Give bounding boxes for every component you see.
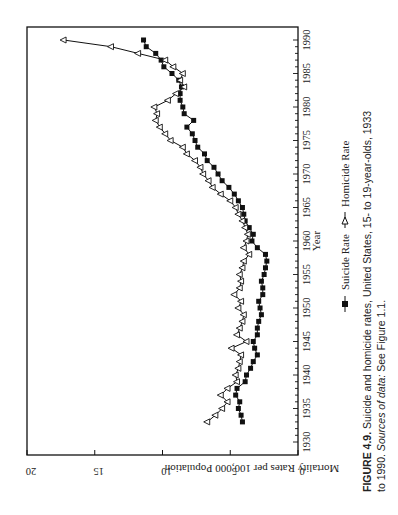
filled-square-marker-icon [251, 339, 256, 344]
filled-square-marker-icon [235, 386, 240, 391]
filled-square-marker-icon [144, 44, 149, 49]
filled-square-marker-icon [211, 165, 216, 170]
filled-square-marker-icon [237, 399, 242, 404]
open-triangle-marker-icon [108, 44, 114, 50]
y-axis-title: Mortality Rates per 100,000 Population [164, 463, 339, 475]
legend-label-suicide: Suicide Rate [339, 234, 351, 290]
legend-item-suicide: Suicide Rate [339, 234, 351, 312]
open-triangle-marker-icon [164, 97, 170, 103]
x-tick-label: 1935 [301, 398, 312, 419]
filled-square-marker-icon [260, 285, 265, 290]
open-triangle-marker-icon [236, 272, 242, 278]
open-triangle-marker-icon [156, 124, 162, 130]
filled-square-marker-icon [244, 373, 249, 378]
open-triangle-marker-icon [167, 138, 173, 144]
filled-square-marker-icon [342, 301, 348, 307]
filled-square-marker-icon [232, 192, 237, 197]
filled-square-marker-icon [191, 118, 196, 123]
open-triangle-marker-icon [204, 419, 210, 425]
filled-square-marker-icon [202, 151, 207, 156]
open-triangle-marker-icon [151, 104, 157, 110]
open-triangle-marker-icon [232, 205, 238, 211]
x-tick-label: 1975 [301, 130, 312, 151]
filled-square-marker-icon [205, 158, 210, 163]
filled-square-marker-icon [240, 419, 245, 424]
filled-square-marker-icon [216, 172, 221, 177]
legend-label-homicide: Homicide Rate [339, 141, 351, 207]
filled-square-marker-icon [259, 279, 264, 284]
filled-square-marker-icon [248, 366, 253, 371]
filled-square-marker-icon [264, 259, 269, 264]
open-triangle-marker-icon [236, 285, 242, 291]
figure-label: FIGURE 4.9. [361, 432, 373, 492]
filled-square-marker-icon [255, 326, 260, 331]
open-triangle-marker-icon [205, 178, 211, 184]
legend: Suicide Rate Homicide Rate [339, 141, 351, 312]
filled-square-marker-icon [252, 346, 257, 351]
figure-caption: FIGURE 4.9. Suicide and homicide rates, … [361, 111, 387, 492]
filled-square-marker-icon [169, 71, 174, 76]
filled-square-marker-icon [251, 359, 256, 364]
filled-square-marker-icon [256, 319, 261, 324]
open-triangle-marker-icon [179, 144, 185, 150]
open-triangle-marker-icon [240, 245, 246, 251]
filled-square-marker-icon [226, 185, 231, 190]
filled-square-marker-icon [255, 332, 260, 337]
y-tick-label: 15 [94, 466, 105, 477]
filled-square-marker-icon [251, 232, 256, 237]
filled-square-marker-icon [256, 299, 261, 304]
filled-square-marker-icon [161, 64, 166, 69]
filled-square-marker-icon [249, 239, 254, 244]
filled-square-marker-icon [263, 265, 268, 270]
filled-square-marker-icon [141, 38, 146, 43]
open-triangle-marker-icon [228, 345, 234, 351]
filled-square-marker-icon [236, 198, 241, 203]
filled-square-marker-icon [193, 138, 198, 143]
filled-square-marker-icon [263, 252, 268, 257]
filled-square-marker-icon [190, 131, 195, 136]
data-series [60, 37, 269, 425]
filled-square-marker-icon [184, 125, 189, 130]
filled-square-marker-icon [262, 272, 267, 277]
filled-square-marker-icon [180, 105, 185, 110]
homicide-rate-line [64, 40, 250, 422]
open-triangle-marker-icon [239, 218, 245, 224]
open-triangle-marker-icon [135, 50, 141, 56]
open-triangle-marker-icon [209, 184, 215, 190]
filled-square-marker-icon [259, 312, 264, 317]
caption-line-2-prefix: to 1990. [375, 451, 387, 492]
x-tick-label: 1970 [301, 164, 312, 185]
filled-square-marker-icon [240, 205, 245, 210]
open-triangle-marker-icon [183, 151, 189, 157]
filled-square-marker-icon [153, 51, 158, 56]
open-triangle-marker-icon [152, 117, 158, 123]
x-tick-label: 1990 [301, 30, 312, 51]
suicide-rate-line [144, 40, 267, 422]
open-triangle-marker-icon [217, 392, 223, 398]
legend-item-homicide: Homicide Rate [339, 141, 351, 228]
open-triangle-marker-icon [162, 131, 168, 137]
x-tick-label: 1985 [301, 63, 312, 84]
open-triangle-marker-icon [232, 372, 238, 378]
x-axis-title: Year [310, 231, 322, 252]
x-tick-label: 1945 [301, 331, 312, 352]
svg-text:to 1990. Sources of data: See: to 1990. Sources of data: See Figure 1.1… [375, 300, 387, 492]
open-triangle-marker-icon [246, 251, 252, 257]
filled-square-marker-icon [178, 98, 183, 103]
filled-square-marker-icon [241, 212, 246, 217]
open-triangle-marker-icon [197, 164, 203, 170]
x-tick-label: 1955 [301, 264, 312, 285]
filled-square-marker-icon [260, 292, 265, 297]
filled-square-marker-icon [239, 413, 244, 418]
figure-page: 05101520 1930193519401945195019551960196… [0, 0, 398, 515]
open-triangle-marker-icon [234, 332, 240, 338]
filled-square-marker-icon [255, 352, 260, 357]
filled-square-marker-icon [195, 145, 200, 150]
x-tick-label: 1965 [301, 197, 312, 218]
caption-line-1: Suicide and homicide rates, United State… [361, 111, 373, 432]
filled-square-marker-icon [258, 306, 263, 311]
filled-square-marker-icon [255, 245, 260, 250]
open-triangle-marker-icon [231, 292, 237, 298]
filled-square-marker-icon [243, 379, 248, 384]
open-triangle-marker-icon [235, 305, 241, 311]
